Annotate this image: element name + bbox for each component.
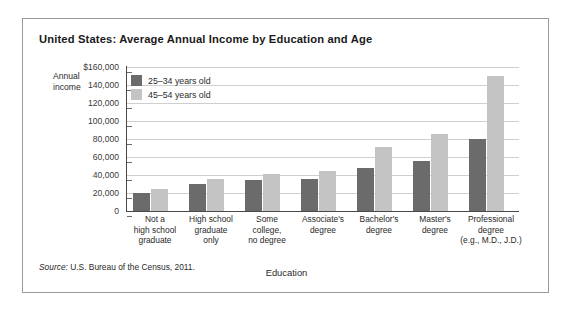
legend-swatch (131, 89, 142, 100)
source-prefix: Source: (39, 262, 68, 272)
bar (189, 184, 206, 211)
y-axis-tick-label: 80,000 (93, 134, 127, 144)
bar (319, 171, 336, 212)
x-axis-category-label-line: Associate's (291, 214, 355, 225)
x-axis-category-label-line: Professional (459, 214, 523, 225)
x-axis-category-label-line: degree (459, 225, 523, 236)
y-axis-tick: 40,000 (23, 175, 127, 185)
bar (469, 139, 486, 211)
y-axis-tick-label: 120,000 (88, 98, 127, 108)
bar-group (407, 67, 463, 211)
chart-legend: 25–34 years old45–54 years old (131, 75, 211, 103)
legend-item: 25–34 years old (131, 75, 211, 86)
legend-swatch (131, 75, 142, 86)
y-axis-tick-label: 20,000 (93, 188, 127, 198)
bar-group (295, 67, 351, 211)
legend-label: 25–34 years old (148, 76, 211, 86)
x-axis-category-label-line: Bachelor's (347, 214, 411, 225)
legend-item: 45–54 years old (131, 89, 211, 100)
y-axis-tick-label: $160,000 (83, 62, 127, 72)
x-axis-category-label-line: degree (403, 225, 467, 236)
bar (431, 134, 448, 211)
axis-baseline (127, 211, 519, 212)
y-axis-tick: $160,000 (23, 67, 127, 77)
x-axis-category-label: High schoolgraduateonly (179, 214, 243, 246)
figure-frame: United States: Average Annual Income by … (22, 18, 549, 293)
x-axis-category-label: Professionaldegree(e.g., M.D., J.D.) (459, 214, 523, 246)
bar (207, 179, 224, 211)
y-axis-tick-label: 100,000 (88, 116, 127, 126)
x-axis-category-label: Master'sdegree (403, 214, 467, 235)
x-axis-category-label-line: High school (179, 214, 243, 225)
x-axis-category-labels: Not ahigh schoolgraduateHigh schoolgradu… (127, 214, 519, 264)
bar-group (463, 67, 519, 211)
x-axis-category-label-line: degree (347, 225, 411, 236)
x-axis-category-label-line: degree (291, 225, 355, 236)
y-axis-tick: 60,000 (23, 157, 127, 167)
x-axis-category-label: Bachelor'sdegree (347, 214, 411, 235)
x-axis-category-label: Associate'sdegree (291, 214, 355, 235)
bar-group (239, 67, 295, 211)
y-axis-tick-label: 40,000 (93, 170, 127, 180)
x-axis-category-label-line: (e.g., M.D., J.D.) (459, 235, 523, 246)
page-title: United States: Average Annual Income by … (39, 33, 372, 45)
x-axis-category-label-line: Master's (403, 214, 467, 225)
bar (263, 174, 280, 211)
legend-label: 45–54 years old (148, 90, 211, 100)
source-note: Source: U.S. Bureau of the Census, 2011. (39, 262, 195, 272)
x-axis-category-label-line: graduate (179, 225, 243, 236)
bar (245, 180, 262, 211)
x-axis-category-label-line: Not a (123, 214, 187, 225)
y-axis-tick: 100,000 (23, 121, 127, 131)
bar (413, 161, 430, 211)
y-axis-tick: 120,000 (23, 103, 127, 113)
x-axis-category-label: Somecollege,no degree (235, 214, 299, 246)
y-axis-tick-label: 140,000 (88, 80, 127, 90)
bar-group (351, 67, 407, 211)
x-axis-category-label-line: college, (235, 225, 299, 236)
bar (375, 147, 392, 211)
x-axis-category-label-line: graduate (123, 235, 187, 246)
x-axis-category-label-line: only (179, 235, 243, 246)
y-axis-tick: 80,000 (23, 139, 127, 149)
x-axis-category-label-line: no degree (235, 235, 299, 246)
x-axis-category-label-line: high school (123, 225, 187, 236)
bar (151, 189, 168, 212)
y-axis-tick: 140,000 (23, 85, 127, 95)
y-axis-tick-label: 60,000 (93, 152, 127, 162)
bar (357, 168, 374, 211)
x-axis-category-label: Not ahigh schoolgraduate (123, 214, 187, 246)
source-text: U.S. Bureau of the Census, 2011. (68, 262, 195, 272)
x-axis-category-label-line: Some (235, 214, 299, 225)
bar (301, 179, 318, 211)
bar (133, 193, 150, 211)
y-axis-tick: 20,000 (23, 193, 127, 203)
bar (487, 76, 504, 211)
y-axis-tick: 0 (23, 211, 127, 221)
